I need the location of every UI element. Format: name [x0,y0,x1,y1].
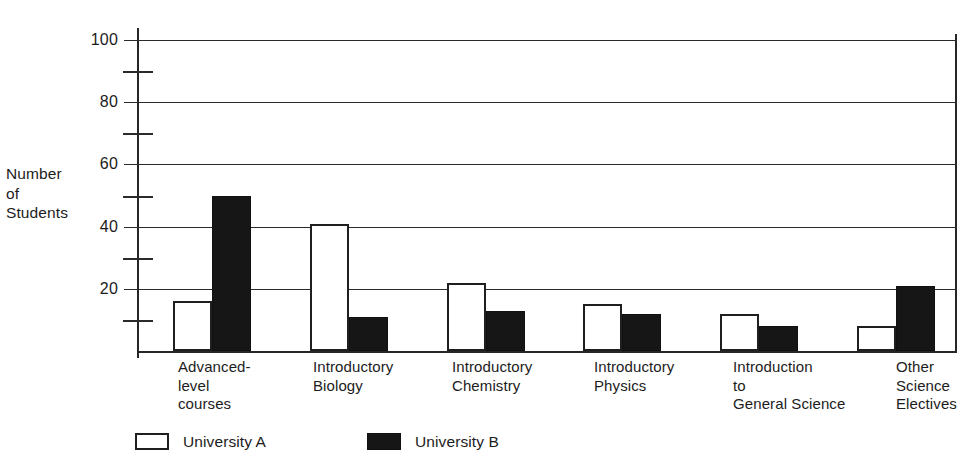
category-label-5: OtherScienceElectives [896,358,957,414]
category-label-4-line-1: to [733,377,845,396]
bar-university-a-2 [447,283,486,351]
bar-university-b-1 [349,317,388,351]
category-label-4: IntroductiontoGeneral Science [733,358,845,414]
legend-entry-university-b[interactable]: University B [367,430,499,452]
category-label-0-line-2: courses [178,395,251,414]
category-label-4-line-0: Introduction [733,358,845,377]
tick-label-80: 80 [74,94,118,110]
category-label-5-line-2: Electives [896,395,957,414]
category-label-0-line-1: level [178,377,251,396]
bar-university-a-1 [310,224,349,352]
tick-minor-30 [123,258,153,260]
legend-entry-university-a[interactable]: University A [135,430,266,452]
category-label-1: IntroductoryBiology [313,358,393,395]
tick-minor-90 [123,71,153,73]
tick-major-20 [124,289,141,290]
category-label-0: Advanced-levelcourses [178,358,251,414]
category-label-3-line-1: Physics [594,377,674,396]
bar-university-b-0 [212,196,251,352]
tick-label-60: 60 [74,156,118,172]
tick-minor-70 [123,133,153,135]
x-axis-category-labels: Advanced-levelcoursesIntroductoryBiology… [0,358,971,420]
tick-label-40: 40 [74,219,118,235]
tick-minor-50 [123,196,153,198]
category-label-1-line-0: Introductory [313,358,393,377]
bars-layer [137,0,957,351]
category-label-5-line-0: Other [896,358,957,377]
tick-minor-10 [123,320,153,322]
legend-label-0: University A [183,433,266,450]
tick-label-100: 100 [74,32,118,48]
bar-university-b-3 [622,314,661,351]
bar-university-a-3 [583,304,622,351]
bar-university-b-4 [759,326,798,351]
category-label-3-line-0: Introductory [594,358,674,377]
category-label-0-line-0: Advanced- [178,358,251,377]
category-label-5-line-1: Science [896,377,957,396]
bar-university-b-5 [896,286,935,351]
category-label-4-line-2: General Science [733,395,845,414]
tick-major-40 [124,227,141,228]
x-axis-line [137,351,957,353]
tick-major-100 [124,40,141,41]
bar-university-b-2 [486,311,525,351]
legend-swatch-black-square-icon [367,433,401,450]
bar-chart: Number of Students 20406080100 Advanced-… [0,0,971,458]
category-label-3: IntroductoryPhysics [594,358,674,395]
bar-university-a-0 [173,301,212,351]
legend-swatch-white-square-icon [135,433,169,450]
bar-university-a-5 [857,326,896,351]
bar-university-a-4 [720,314,759,351]
tick-major-60 [124,164,141,165]
legend-label-1: University B [415,433,499,450]
category-label-2-line-1: Chemistry [452,377,532,396]
category-label-2: IntroductoryChemistry [452,358,532,395]
category-label-2-line-0: Introductory [452,358,532,377]
tick-label-20: 20 [74,281,118,297]
category-label-1-line-1: Biology [313,377,393,396]
tick-major-80 [124,102,141,103]
